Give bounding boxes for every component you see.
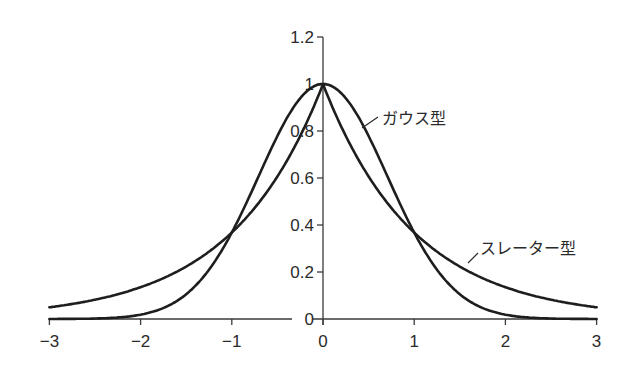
x-tick-label: 1 bbox=[409, 332, 418, 351]
y-tick-label: 0 bbox=[305, 310, 314, 329]
x-tick-label: 2 bbox=[501, 332, 510, 351]
x-tick-label: 3 bbox=[592, 332, 601, 351]
slater-label: スレーター型 bbox=[480, 239, 576, 258]
y-tick-label: 0.4 bbox=[290, 216, 314, 235]
chart: −3−2−1012300.20.40.60.811.2 ガウス型 スレーター型 bbox=[0, 0, 630, 374]
y-tick-label: 0.6 bbox=[290, 169, 314, 188]
y-tick-label: 0.2 bbox=[290, 263, 314, 282]
gaussian-leader-line bbox=[362, 117, 378, 128]
x-tick-label: −3 bbox=[40, 332, 59, 351]
axes: −3−2−1012300.20.40.60.811.2 bbox=[40, 28, 602, 351]
x-tick-label: −2 bbox=[131, 332, 150, 351]
x-tick-label: −1 bbox=[222, 332, 241, 351]
annotations: ガウス型 スレーター型 bbox=[362, 109, 576, 263]
gaussian-label: ガウス型 bbox=[382, 109, 446, 128]
x-tick-label: 0 bbox=[318, 332, 327, 351]
slater-leader-line bbox=[468, 253, 478, 263]
y-tick-label: 1.2 bbox=[290, 28, 314, 47]
